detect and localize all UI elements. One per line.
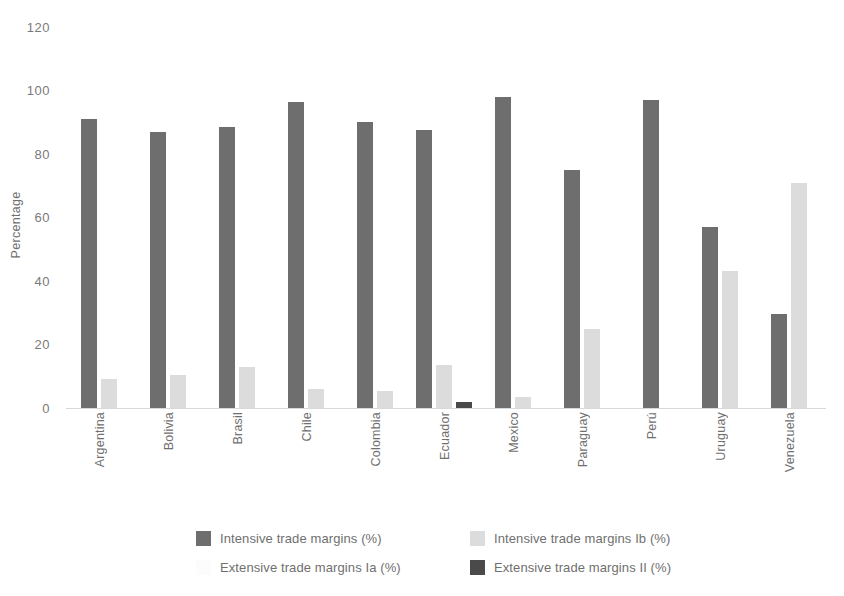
y-tick-80: 80 [35,148,50,161]
y-tick-120: 120 [27,21,50,34]
y-tick-0: 0 [42,402,50,415]
y-axis: Percentage 120 100 80 60 40 20 0 [0,0,64,596]
bar [515,397,531,408]
bar [170,375,186,408]
x-label-uruguay: Uruguay [714,412,728,461]
legend-swatch-icon [470,560,485,575]
bar [495,97,511,408]
plot-area [66,27,826,408]
x-label-colombia: Colombia [369,412,383,466]
bar [643,100,659,408]
x-label-brasil: Brasil [231,412,245,444]
legend-swatch-icon [470,531,485,546]
x-axis-labels: ArgentinaBoliviaBrasilChileColombiaEcuad… [66,412,826,512]
bar [791,183,807,408]
bar-group [288,102,324,408]
x-axis-line [66,408,826,409]
x-label-ecuador: Ecuador [438,412,452,460]
bar [584,329,600,408]
y-axis-title: Percentage [9,165,23,285]
legend-label: Extensive trade margins II (%) [494,560,671,575]
y-tick-60: 60 [35,211,50,224]
bar-group [495,97,531,408]
bar-group [150,132,186,408]
bar-group [416,130,472,408]
legend-item: Intensive trade margins (%) [196,531,446,546]
bar-chart: Percentage 120 100 80 60 40 20 0 Argenti… [0,0,844,596]
legend-item: Extensive trade margins II (%) [446,560,696,575]
legend-swatch-icon [196,560,211,575]
legend-swatch-icon [196,531,211,546]
bar [239,367,255,408]
bar [357,122,373,408]
bar-group [771,183,807,408]
bar [150,132,166,408]
bar [377,391,393,408]
x-label-bolivia: Bolivia [162,412,176,450]
bar [219,127,235,408]
x-label-venezuela: Venezuela [783,412,797,472]
bar [288,102,304,408]
bar-group [219,127,255,408]
x-label-mexico: Mexico [507,412,521,453]
y-tick-100: 100 [27,84,50,97]
bar [81,119,97,408]
x-label-paraguay: Paraguay [576,412,590,467]
bar [722,271,738,408]
bar [416,130,432,408]
bar [771,314,787,408]
bar-group [702,227,738,408]
bar [308,389,324,408]
chart-legend: Intensive trade margins (%)Intensive tra… [196,524,796,582]
legend-item: Intensive trade margins Ib (%) [446,531,696,546]
bar [436,365,452,408]
bar [101,379,117,408]
y-tick-20: 20 [35,338,50,351]
bar-group [357,122,393,408]
bar-group [643,100,659,408]
bar [564,170,580,408]
y-tick-40: 40 [35,275,50,288]
bar-group [81,119,117,408]
bar-group [564,170,600,408]
x-label-argentina: Argentina [93,412,107,467]
x-label-per: Perú [645,412,659,439]
legend-item: Extensive trade margins Ia (%) [196,560,446,575]
x-label-chile: Chile [300,412,314,442]
legend-label: Intensive trade margins Ib (%) [494,531,670,546]
legend-label: Extensive trade margins Ia (%) [220,560,401,575]
bar [702,227,718,408]
legend-label: Intensive trade margins (%) [220,531,382,546]
